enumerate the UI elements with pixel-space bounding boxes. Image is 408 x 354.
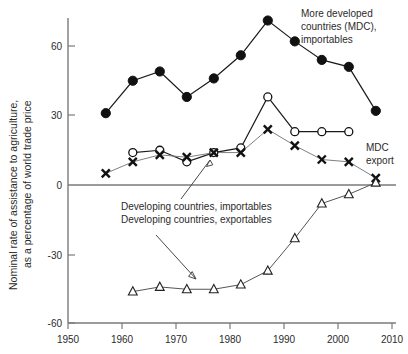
annotation-developing-importables: Developing countries, importables — [121, 201, 272, 212]
y-axis-title-line1: Nominal rate of assistance to agricultur… — [7, 100, 19, 290]
y-axis-title-line2: as a percentage of world trade price — [21, 100, 33, 268]
y-tick-label-neg30: -30 — [48, 250, 63, 261]
x-axis-ticks — [68, 323, 392, 329]
data-point — [128, 76, 137, 85]
annotation-mdc-line3: importables — [301, 34, 353, 45]
x-tick-label-1960: 1960 — [111, 334, 134, 345]
data-point — [182, 92, 191, 101]
x-tick-label-1970: 1970 — [165, 334, 188, 345]
data-point — [371, 106, 380, 115]
chart-container: 60 30 0 -30 -60 1950 1960 1970 1980 1990… — [0, 0, 408, 354]
data-point — [345, 128, 353, 136]
data-point — [155, 67, 164, 76]
data-point — [101, 109, 110, 118]
data-point — [129, 158, 137, 166]
chart-svg: 60 30 0 -30 -60 1950 1960 1970 1980 1990… — [0, 0, 408, 354]
annotation-mdc-export: MDC export — [366, 142, 394, 166]
leader-line-developing-exportables — [156, 235, 196, 279]
y-tick-label-30: 30 — [51, 110, 63, 121]
annotation-mdc-export-line2: export — [366, 155, 394, 166]
x-tick-label-2010: 2010 — [381, 334, 404, 345]
annotation-mdc-line1: More developed — [301, 8, 373, 19]
annotation-mdc-export-line1: MDC — [366, 142, 389, 153]
data-point — [264, 125, 272, 133]
data-point — [236, 51, 245, 60]
x-tick-label-1980: 1980 — [219, 334, 242, 345]
y-tick-label-60: 60 — [51, 41, 63, 52]
x-tick-label-2000: 2000 — [327, 334, 350, 345]
data-point — [318, 128, 326, 136]
x-tick-label-1990: 1990 — [273, 334, 296, 345]
y-tick-label-0: 0 — [56, 180, 62, 191]
data-point — [236, 280, 245, 288]
series-line-developing-exportables — [133, 183, 376, 292]
series-markers-mdc-export — [102, 125, 380, 182]
data-point — [291, 142, 299, 150]
data-point — [263, 16, 272, 25]
data-point — [291, 128, 299, 136]
annotation-mdc-line2: countries (MDC), — [301, 21, 377, 32]
data-point — [344, 189, 353, 197]
data-point — [317, 55, 326, 64]
data-point — [155, 282, 164, 290]
data-point — [209, 74, 218, 83]
data-point — [129, 149, 137, 157]
annotation-mdc-importables: More developed countries (MDC), importab… — [301, 8, 377, 45]
annotation-developing-exportables: Developing countries, exportables — [121, 214, 272, 225]
data-point — [102, 169, 110, 177]
y-tick-label-neg60: -60 — [48, 318, 63, 329]
x-tick-label-1950: 1950 — [57, 334, 80, 345]
annotation-developing-group: Developing countries, importables Develo… — [121, 201, 272, 225]
data-point — [264, 93, 272, 101]
data-point — [290, 37, 299, 46]
data-point — [344, 62, 353, 71]
